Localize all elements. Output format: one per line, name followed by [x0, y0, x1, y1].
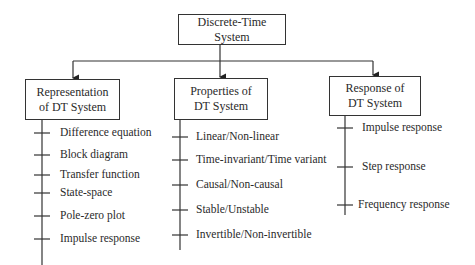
- list-item: Impulse response: [362, 121, 442, 134]
- list-item: State-space: [60, 186, 112, 199]
- branch-title-line2: DT System: [194, 99, 248, 114]
- branch-node-properties: Properties of DT System: [174, 78, 268, 120]
- list-item: Invertible/Non-invertible: [196, 228, 312, 241]
- branch-node-response: Response of DT System: [329, 76, 421, 116]
- list-item: Causal/Non-causal: [196, 178, 283, 191]
- root-node: Discrete-Time System: [178, 14, 286, 45]
- list-item: Pole-zero plot: [60, 209, 125, 222]
- list-item: Block diagram: [60, 148, 128, 161]
- branch-title-line1: Response of: [346, 81, 405, 96]
- branch-title-line2: of DT System: [39, 100, 106, 115]
- list-item: Impulse response: [60, 232, 140, 245]
- list-item: Time-invariant/Time variant: [196, 153, 326, 166]
- branch-node-representation: Representation of DT System: [25, 79, 120, 120]
- list-item: Step response: [362, 160, 426, 173]
- branch-title-line1: Representation: [37, 85, 109, 100]
- list-item: Stable/Unstable: [196, 203, 269, 216]
- list-item: Frequency response: [358, 198, 450, 211]
- branch-title-line2: DT System: [348, 96, 402, 111]
- list-item: Linear/Non-linear: [196, 130, 279, 143]
- list-item: Difference equation: [60, 126, 151, 139]
- list-item: Transfer function: [60, 168, 140, 181]
- root-label: Discrete-Time System: [179, 15, 285, 45]
- branch-title-line1: Properties of: [190, 84, 252, 99]
